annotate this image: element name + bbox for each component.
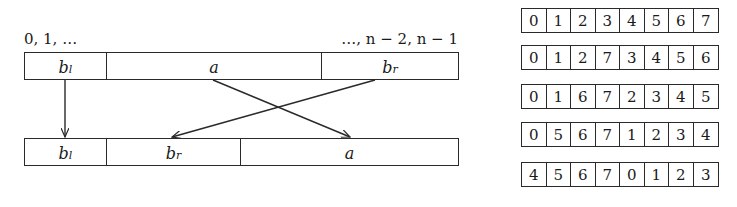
array-cell: 7 <box>596 123 621 146</box>
array-cell: 3 <box>645 85 670 108</box>
array-cell: 0 <box>522 46 547 69</box>
array-cell: 4 <box>620 9 645 32</box>
array-row-2: 0 1 2 7 3 4 5 6 <box>521 45 719 70</box>
array-cell: 1 <box>547 46 572 69</box>
array-cell: 0 <box>522 9 547 32</box>
array-cell: 2 <box>571 46 596 69</box>
array-row-1: 0 1 2 3 4 5 6 7 <box>521 8 719 33</box>
array-cell: 4 <box>645 46 670 69</box>
array-cell: 0 <box>620 163 645 186</box>
arrow-b-r <box>172 80 375 137</box>
array-cell: 6 <box>571 163 596 186</box>
array-cell: 7 <box>596 46 621 69</box>
array-cell: 6 <box>571 85 596 108</box>
array-cell: 4 <box>694 123 719 146</box>
array-cell: 6 <box>571 123 596 146</box>
array-cell: 1 <box>620 123 645 146</box>
array-cell: 5 <box>547 123 572 146</box>
array-cell: 5 <box>547 163 572 186</box>
array-cell: 1 <box>547 9 572 32</box>
array-row-5: 4 5 6 7 0 1 2 3 <box>521 162 719 187</box>
array-cell: 5 <box>645 9 670 32</box>
array-cell: 5 <box>694 85 719 108</box>
array-cell: 2 <box>645 123 670 146</box>
array-cell: 2 <box>669 163 694 186</box>
array-cell: 7 <box>694 9 719 32</box>
array-row-4: 0 5 6 7 1 2 3 4 <box>521 122 719 147</box>
array-cell: 3 <box>694 163 719 186</box>
array-cell: 7 <box>596 163 621 186</box>
array-cell: 4 <box>669 85 694 108</box>
array-cell: 7 <box>596 85 621 108</box>
array-cell: 2 <box>620 85 645 108</box>
array-cell: 0 <box>522 85 547 108</box>
array-cell: 1 <box>645 163 670 186</box>
array-cell: 3 <box>620 46 645 69</box>
array-cell: 6 <box>694 46 719 69</box>
arrow-a <box>213 80 350 137</box>
array-cell: 6 <box>669 9 694 32</box>
array-row-3: 0 1 6 7 2 3 4 5 <box>521 84 719 109</box>
array-cell: 3 <box>669 123 694 146</box>
array-cell: 0 <box>522 123 547 146</box>
array-cell: 1 <box>547 85 572 108</box>
array-cell: 5 <box>669 46 694 69</box>
array-cell: 4 <box>522 163 547 186</box>
array-cell: 3 <box>596 9 621 32</box>
array-cell: 2 <box>571 9 596 32</box>
